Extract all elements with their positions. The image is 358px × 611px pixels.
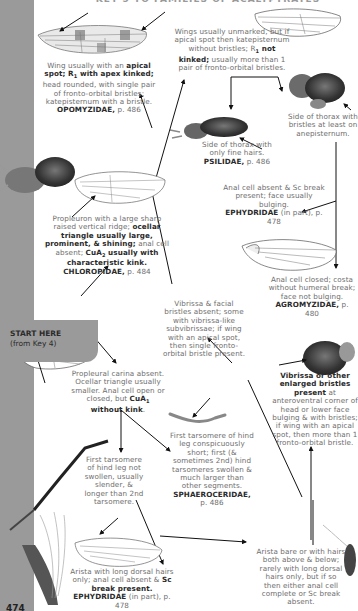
node-propleural-absent: Propleural carina absent. Ocellar triang… (70, 370, 166, 414)
node-tarsomere-long: First tarsomere of hind leg not swollen,… (84, 456, 144, 506)
node-opomyzidae: Wing usually with an apical spot; R1 wit… (38, 62, 160, 115)
arrow (279, 360, 306, 365)
family-link-opomyzidae[interactable]: OPOMYZIDAE, (57, 105, 115, 114)
start-here-label: START HERE (10, 329, 61, 339)
arrow (160, 536, 246, 542)
family-link-chloropidae[interactable]: CHLOROPIDAE, (63, 267, 125, 276)
node-sphaeroceridae: First tarsomere of hind leg conspicuousl… (170, 432, 254, 508)
agromyzid-wing-illustration (242, 240, 336, 271)
node-psilidae: Side of thorax with only fine hairs. PSI… (200, 141, 274, 166)
chloropid-wing-illustration (75, 172, 165, 204)
node-anepisternum: Side of thorax with bristles at least on… (288, 113, 358, 138)
node-ephydridae-2: Arista with long dorsal hairs only; anal… (70, 568, 174, 610)
node-ephydridae-1: Anal cell absent & Sc break present; fac… (222, 184, 326, 226)
arrow (344, 104, 351, 110)
node-vibrissa-present: Vibrissa or other enlarged bristles pres… (272, 372, 358, 448)
node-arista-bare: Arista bare or with hairs both above & b… (256, 548, 346, 607)
psilid-fly-illustration (170, 117, 248, 139)
ephydrid-wing-illustration (75, 538, 162, 566)
start-here-sub: (from Key 4) (10, 339, 61, 349)
node-chloropidae: Propleuron with a large sharp raised ver… (42, 215, 172, 276)
node-wings-unmarked: Wings usually unmarked, but if apical sp… (172, 28, 292, 72)
node-vibrissa-absent: Vibrissa & facial bristles absent; some … (160, 300, 248, 359)
family-link-psilidae[interactable]: PSILIDAE, (204, 157, 244, 166)
arrow (240, 77, 282, 91)
thorax-bristles-fly-illustration (289, 73, 345, 109)
vibrissa-head-illustration (303, 341, 355, 375)
arrow (193, 398, 210, 417)
arrow (142, 12, 165, 30)
node-agromyzidae: Anal cell closed; costa without humeral … (268, 276, 356, 318)
arrow (121, 410, 170, 451)
arrow (100, 518, 118, 534)
opomyzid-wing-illustration (38, 26, 147, 54)
chloropid-fly-illustration (0, 157, 75, 193)
page-number: 474 (6, 603, 25, 611)
sphaerocerid-leg-illustration (170, 414, 225, 421)
arista-antenna-illustration (22, 512, 65, 605)
start-here-tab[interactable]: START HERE (from Key 4) (0, 320, 98, 362)
